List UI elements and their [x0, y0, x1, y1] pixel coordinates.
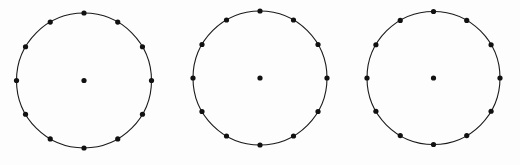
circle-2-vertex-4	[324, 75, 329, 80]
circle-1-vertex-5	[140, 112, 145, 117]
circle-1-vertex-3	[140, 44, 145, 49]
circle-3-vertex-7	[431, 142, 436, 147]
circle-1	[14, 10, 154, 150]
circle-2	[190, 8, 329, 147]
circle-2-vertex-1	[257, 8, 262, 13]
circle-1-vertex-6	[115, 136, 120, 141]
circle-3-vertex-1	[431, 9, 436, 14]
circle-2-vertex-11	[199, 42, 204, 47]
circle-3-vertex-6	[464, 133, 469, 138]
circle-1-vertex-11	[23, 44, 28, 49]
circle-2-vertex-5	[315, 109, 320, 114]
circle-3-vertex-3	[488, 42, 493, 47]
circles-group	[14, 8, 503, 150]
circles-figure-svg	[0, 0, 520, 165]
circle-1-vertex-1	[81, 10, 86, 15]
circle-1-vertex-9	[23, 112, 28, 117]
circle-2-vertex-2	[291, 17, 296, 22]
circle-2-vertex-8	[224, 133, 229, 138]
circle-2-vertex-12	[224, 17, 229, 22]
circle-2-vertex-9	[199, 109, 204, 114]
circle-1-vertex-8	[48, 136, 53, 141]
circle-1-vertex-12	[48, 19, 53, 24]
circle-1-vertex-2	[115, 19, 120, 24]
circle-1-vertex-7	[81, 145, 86, 150]
circle-3-vertex-9	[373, 109, 378, 114]
circle-3-vertex-12	[398, 18, 403, 23]
circle-3-vertex-5	[488, 109, 493, 114]
circle-3-vertex-8	[398, 133, 403, 138]
circle-3-center-point	[431, 75, 436, 80]
circle-1-vertex-4	[149, 78, 154, 83]
circle-2-vertex-6	[291, 133, 296, 138]
circle-1-vertex-10	[14, 78, 19, 83]
circle-2-vertex-3	[315, 42, 320, 47]
circle-3	[364, 9, 502, 147]
circle-3-vertex-10	[364, 75, 369, 80]
circle-3-vertex-4	[497, 75, 502, 80]
circle-2-vertex-7	[257, 142, 262, 147]
circle-2-center-point	[257, 75, 262, 80]
circle-1-center-point	[81, 78, 86, 83]
figure-canvas	[0, 0, 520, 165]
circle-2-vertex-10	[190, 75, 195, 80]
circle-3-vertex-2	[464, 18, 469, 23]
circle-3-vertex-11	[373, 42, 378, 47]
